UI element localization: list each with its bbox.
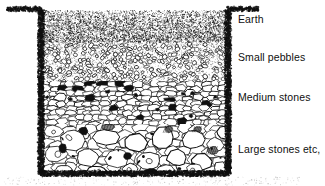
label-large-stones: Large stones etc,: [238, 143, 320, 155]
label-medium-stones: Medium stones: [238, 91, 311, 103]
layer-large-stones-texture: [37, 121, 232, 178]
layer-earth-texture: [42, 9, 226, 42]
soakaway-cross-section-figure: Earth Small pebbles Medium stones Large …: [0, 0, 325, 186]
label-small-pebbles: Small pebbles: [238, 51, 305, 63]
scan-noise: [4, 177, 300, 186]
layer-small-pebbles-texture: [42, 41, 229, 84]
layer-medium-stones-texture: [37, 79, 232, 127]
label-earth: Earth: [238, 13, 264, 25]
